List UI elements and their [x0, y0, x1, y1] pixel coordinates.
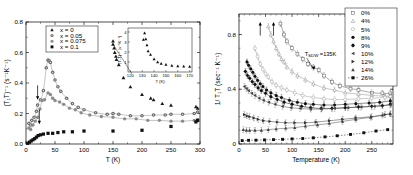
- data-point-square-filled-dashed: [301, 137, 304, 140]
- inset-xtick-label: 150: [162, 73, 170, 78]
- data-point-square: [51, 45, 54, 48]
- data-point-circle-open: [370, 97, 373, 100]
- data-point-square: [39, 133, 42, 136]
- inset-xtick-label: 160: [174, 73, 182, 78]
- data-point-circle-dot: [196, 110, 200, 114]
- left-ytick-label: 0.4: [14, 79, 23, 86]
- data-point-circle-open: [285, 88, 288, 91]
- data-point-circle-filled: [251, 71, 254, 74]
- left-ytick-label: 0.8: [14, 18, 23, 25]
- data-point-circle-filled: [354, 102, 357, 105]
- data-point-square-filled-dashed: [291, 137, 294, 140]
- data-point-circle-open: [256, 55, 259, 58]
- left-legend[interactable]: x = 0x = 0.05x = 0.075x = 0.1: [46, 26, 98, 52]
- inset-xaxis-label: T (K): [155, 79, 165, 84]
- right-ytick-label: 0.4: [227, 85, 236, 92]
- data-point-square-open: [307, 63, 310, 66]
- data-point-circle: [38, 107, 41, 110]
- data-point-circle: [49, 93, 52, 96]
- data-point-square: [71, 130, 74, 133]
- data-point-circle-dot: [56, 85, 60, 89]
- data-point-circle: [74, 108, 77, 111]
- right-legend-label: 10%: [361, 50, 374, 57]
- right-legend-label: 12%: [361, 58, 374, 65]
- data-point-circle-filled: [280, 96, 283, 99]
- left-ytick-label: 0.6: [14, 49, 23, 56]
- data-point-circle-dot: [51, 71, 55, 75]
- data-point-square-open: [357, 89, 360, 92]
- data-point-circle-filled: [312, 103, 315, 106]
- right-xtick-label: 50: [262, 146, 269, 153]
- data-point-circle: [169, 119, 172, 122]
- data-point-circle-dot: [35, 109, 39, 113]
- data-point-square: [46, 132, 49, 135]
- right-xtick-label: 0: [237, 146, 241, 153]
- data-point-circle-open: [312, 96, 315, 99]
- data-point-circle-open: [253, 47, 256, 50]
- data-point-circle: [36, 116, 39, 119]
- data-point-square-open: [323, 74, 326, 77]
- data-point-circle: [34, 119, 37, 122]
- data-point-circle: [31, 123, 34, 126]
- data-point-circle: [53, 99, 56, 102]
- inset-xtick-label: 140: [151, 73, 159, 78]
- left-panel: 0501001502002503000.00.20.40.60.8T (K)(T…: [0, 0, 207, 175]
- data-point-circle: [88, 113, 91, 116]
- data-point-circle: [43, 98, 46, 101]
- right-panel: 05010015020025000.40.8Temperature (K)1/ …: [207, 0, 413, 175]
- left-ytick-label: 0.0: [14, 140, 23, 147]
- data-point-circle-dot: [82, 108, 86, 112]
- data-point-square: [62, 130, 65, 133]
- data-point-circle-filled: [288, 99, 291, 102]
- right-legend-label: 4%: [361, 17, 370, 24]
- data-point-square: [82, 129, 85, 132]
- data-point-circle: [50, 40, 53, 43]
- data-point-circle-open: [267, 75, 270, 78]
- data-point-square-open: [279, 22, 282, 25]
- data-point-circle-dot: [152, 113, 156, 117]
- data-point-circle-open: [259, 62, 262, 65]
- data-point-circle-dot: [105, 112, 109, 116]
- data-point-circle-dot: [192, 112, 196, 116]
- data-point-square-open: [381, 92, 384, 95]
- right-legend[interactable]: 0%4%5%8%9%10%12%14%26%: [345, 8, 397, 86]
- left-xtick-label: 0: [24, 146, 28, 153]
- data-point-circle: [158, 119, 161, 122]
- data-point-circle-open: [333, 98, 336, 101]
- data-point-square-filled-dashed: [255, 139, 258, 142]
- data-point-circle-filled: [256, 79, 259, 82]
- data-point-square-open: [301, 58, 304, 61]
- data-point-circle-dot: [36, 103, 40, 107]
- data-point-square-filled-dashed: [272, 138, 275, 141]
- data-point-square-filled-dashed: [324, 135, 327, 138]
- data-point-square-filled-dashed: [241, 139, 244, 142]
- data-point-circle: [100, 115, 103, 118]
- data-point-circle-open: [384, 96, 387, 99]
- data-point-circle-dot: [32, 116, 36, 120]
- data-point-circle-dot: [94, 111, 98, 115]
- data-point-circle-open: [264, 72, 267, 75]
- data-point-square-open: [338, 84, 341, 87]
- data-point-circle-filled: [247, 64, 250, 67]
- data-point-circle-filled: [322, 103, 325, 106]
- left-xtick-label: 150: [108, 146, 119, 153]
- right-ytick-label: 0.8: [227, 31, 236, 38]
- data-point-circle-open: [357, 97, 360, 100]
- data-point-circle-dot: [181, 112, 185, 116]
- data-point-circle-dot: [71, 102, 75, 106]
- data-point-square-open: [296, 52, 299, 55]
- data-point-square: [42, 132, 45, 135]
- data-point-square-filled-dashed: [336, 134, 339, 137]
- data-point-circle-dot: [117, 112, 121, 116]
- data-point-circle-dot: [140, 114, 144, 118]
- left-xtick-label: 50: [52, 146, 59, 153]
- data-point-circle: [68, 106, 71, 109]
- left-xtick-label: 250: [166, 146, 177, 153]
- right-legend-label: 26%: [361, 74, 374, 81]
- data-point-circle-filled: [245, 60, 248, 63]
- data-point-circle-dot: [30, 119, 34, 123]
- data-point-circle-filled: [378, 101, 381, 104]
- data-point-square: [111, 129, 114, 132]
- data-point-circle: [58, 100, 61, 103]
- left-xaxis-label: T (K): [106, 156, 121, 164]
